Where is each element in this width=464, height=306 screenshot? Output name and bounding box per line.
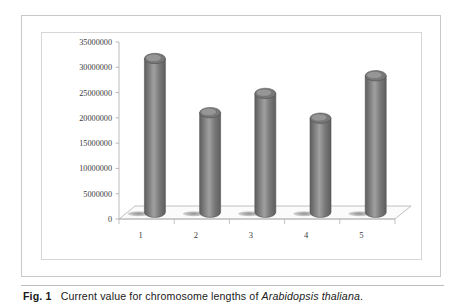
bar-cylinder [128, 53, 166, 217]
y-axis-tick-label: 5000000 [83, 190, 112, 199]
y-axis-tick-label: 30000000 [79, 63, 112, 72]
bar-cap-highlight [367, 72, 382, 79]
x-axis-tick-label: 1 [138, 230, 142, 240]
figure-caption: Fig. 1 Current value for chromosome leng… [23, 289, 453, 303]
caption-divider [21, 285, 444, 286]
bar-body [365, 76, 386, 218]
chart-svg: 0500000010000000150000002000000025000000… [42, 33, 421, 259]
y-axis-tick-label: 20000000 [79, 114, 112, 123]
y-axis-tick-label: 15000000 [79, 139, 112, 148]
caption-body: Current value for chromosome lengths of [61, 290, 259, 302]
caption-species-name: Arabidopsis thaliana [262, 290, 360, 302]
bar-cylinder [293, 113, 331, 217]
chart-plot-border: 0500000010000000150000002000000025000000… [41, 32, 422, 260]
bar-cylinder [348, 70, 386, 217]
bar-body [255, 93, 276, 217]
x-axis-tick-label: 2 [194, 230, 198, 240]
y-axis-tick-label: 10000000 [79, 164, 112, 173]
x-axis-tick-label: 5 [359, 230, 363, 240]
bar-chart: 0500000010000000150000002000000025000000… [42, 33, 421, 259]
figure-number: Fig. 1 [23, 290, 52, 302]
bar-body [144, 59, 165, 218]
bar-cylinder [183, 107, 221, 217]
figure-root: 0500000010000000150000002000000025000000… [0, 0, 464, 306]
x-axis-tick-label: 3 [249, 230, 253, 240]
bar-body [200, 113, 221, 218]
caption-period: . [360, 290, 363, 302]
bar-cap-highlight [146, 55, 161, 62]
x-axis-tick-label: 4 [304, 230, 309, 240]
bar-cylinder [238, 88, 276, 217]
y-axis-tick-label: 0 [108, 215, 112, 224]
y-axis-tick-label: 35000000 [79, 38, 112, 47]
figure-outer-border: 0500000010000000150000002000000025000000… [21, 15, 441, 277]
bar-cap-highlight [257, 89, 272, 96]
bar-body [310, 118, 331, 217]
y-axis-tick-label: 25000000 [79, 89, 112, 98]
bar-cap-highlight [201, 109, 216, 116]
bar-cap-highlight [312, 114, 327, 121]
